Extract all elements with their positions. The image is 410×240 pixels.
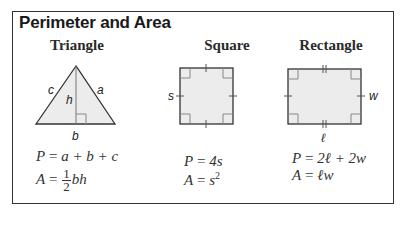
triangle-shape: c h a b [36, 66, 115, 143]
rectangle-length-label: ℓ [321, 131, 326, 145]
square-side-label: s [168, 89, 174, 103]
square-area-formula: A = s2 [184, 170, 220, 189]
square-shape: s [168, 64, 237, 128]
rectangle-perimeter-formula: P = 2ℓ + 2w [292, 150, 366, 167]
rectangle-width-label: w [369, 89, 379, 103]
square-perimeter-formula: P = 4s [184, 153, 222, 170]
triangle-perimeter-formula: P = a + b + c [36, 148, 118, 165]
triangle-height-label: h [66, 93, 73, 107]
rectangle-shape: w ℓ [284, 65, 379, 145]
triangle-side-a-label: a [97, 83, 104, 97]
triangle-area-formula: A = 12bh [36, 168, 87, 193]
triangle-base-label: b [72, 129, 79, 143]
one-half-fraction: 12 [62, 168, 71, 193]
triangle-side-c-label: c [48, 83, 54, 97]
rectangle-area-formula: A = ℓw [292, 167, 333, 184]
